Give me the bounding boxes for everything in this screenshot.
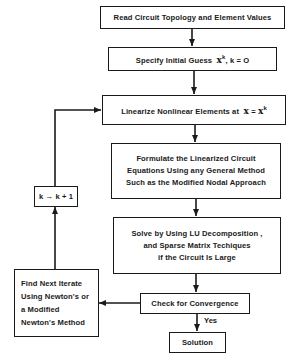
increment-k-box: k → k + 1	[34, 186, 78, 207]
linearize-box: Linearize Nonlinear Elements at x = xk	[102, 95, 286, 125]
linearize-text: Linearize Nonlinear Elements at x = xk	[121, 102, 267, 118]
next-iterate-box: Find Next Iterate Using Newton's or a Mo…	[14, 269, 99, 337]
solve-box: Solve by Using LU Decomposition , and Sp…	[113, 217, 281, 274]
initial-guess-box: Specify Initial Guess xk, k = O	[108, 47, 277, 71]
solve-line-1: Solve by Using LU Decomposition ,	[131, 228, 262, 240]
next-iterate-line-1: Find Next Iterate	[21, 277, 82, 290]
increment-k-text: k → k + 1	[39, 191, 73, 203]
next-iterate-line-2: Using Newton's or	[21, 290, 89, 303]
check-convergence-text: Check for Convergence	[151, 298, 238, 310]
superscript-k: k	[263, 105, 266, 111]
initial-guess-prefix: Specify Initial Guess	[136, 56, 212, 65]
solve-line-2: and Sparse Matrix Techiques	[143, 240, 250, 252]
read-topology-box: Read Circuit Topology and Element Values	[100, 6, 285, 29]
initial-guess-text: Specify Initial Guess xk, k = O	[136, 51, 249, 67]
linearize-prefix: Linearize Nonlinear Elements at	[121, 107, 239, 116]
equals-sign: =	[251, 107, 256, 116]
next-iterate-line-3: a Modified	[21, 303, 60, 316]
formulate-line-2: Equations Using any General Method	[127, 165, 265, 177]
check-convergence-box: Check for Convergence	[140, 293, 250, 314]
yes-label: Yes	[204, 316, 217, 325]
formulate-box: Formulate the Linearized Circuit Equatio…	[111, 143, 281, 199]
next-iterate-line-4: Newton's Method	[21, 316, 85, 329]
solution-box: Solution	[169, 332, 226, 353]
solution-text: Solution	[182, 337, 213, 349]
solve-line-3: if the Circuit Is Large	[158, 252, 236, 264]
formulate-line-1: Formulate the Linearized Circuit	[136, 153, 255, 165]
initial-guess-suffix: , k = O	[226, 56, 250, 65]
vector-x-lhs: x	[243, 106, 248, 116]
formulate-line-3: Such as the Modified Nodal Approach	[126, 177, 266, 189]
read-topology-text: Read Circuit Topology and Element Values	[114, 12, 272, 24]
